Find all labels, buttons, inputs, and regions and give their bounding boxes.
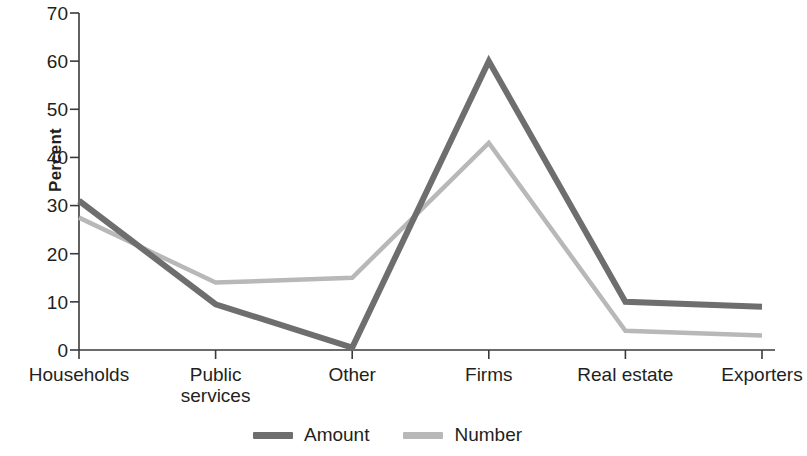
y-axis-tick-labels: 70 60 50 40 30 20 10 0 — [28, 0, 68, 456]
y-tick-label: 50 — [32, 100, 68, 119]
legend-entry-amount: Amount — [253, 424, 369, 446]
data-series-layer — [79, 61, 762, 347]
y-tick-label: 70 — [32, 4, 68, 23]
y-tick-label: 30 — [32, 196, 68, 215]
series-line-amount — [79, 61, 762, 347]
legend-entry-number: Number — [403, 424, 522, 446]
chart-legend: Amount Number — [0, 424, 775, 446]
legend-label-number: Number — [454, 424, 522, 446]
y-tick-label: 0 — [32, 341, 68, 360]
y-tick-label: 60 — [32, 52, 68, 71]
legend-label-amount: Amount — [304, 424, 369, 446]
axis-lines — [79, 13, 775, 350]
legend-swatch-number — [403, 432, 443, 439]
y-tick-label: 40 — [32, 148, 68, 167]
x-tick-label: Exporters — [677, 364, 807, 385]
legend-swatch-amount — [253, 432, 293, 439]
y-tick-label: 20 — [32, 245, 68, 264]
y-tick-label: 10 — [32, 293, 68, 312]
x-axis-ticks — [79, 350, 762, 359]
y-axis-ticks — [70, 13, 79, 350]
series-line-number — [79, 143, 762, 336]
